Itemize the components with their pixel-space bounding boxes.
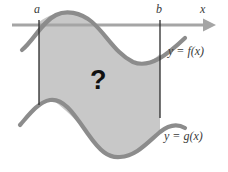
label-region-question-mark: ? [90,67,107,94]
label-upper-bound-b: b [156,3,162,15]
label-curve-g: y = g(x) [164,130,203,142]
area-between-curves-figure: a b x y = f(x) y = g(x) ? [0,0,228,172]
label-curve-f: y = f(x) [168,45,204,57]
figure-canvas [0,0,228,172]
label-lower-bound-a: a [34,3,40,15]
x-axis-arrowhead-icon [203,19,216,32]
label-x-axis: x [200,3,205,15]
